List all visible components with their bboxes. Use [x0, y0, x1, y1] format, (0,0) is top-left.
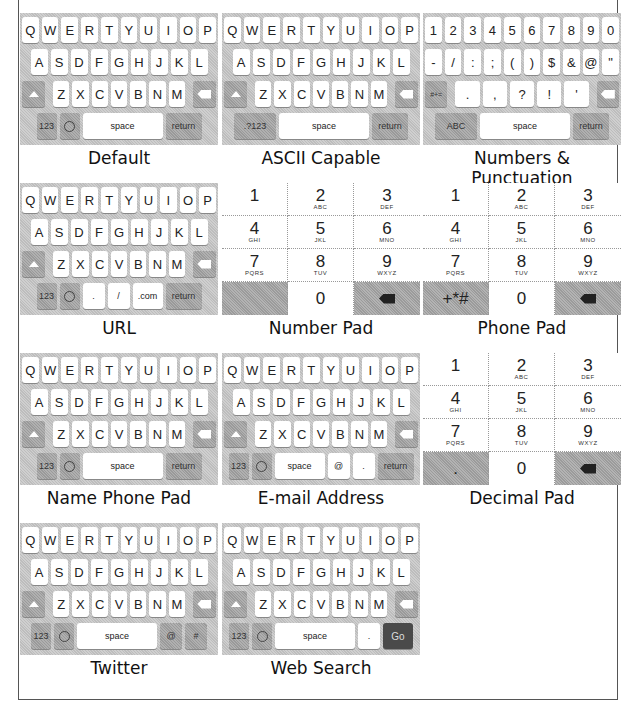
- key-8[interactable]: 8TUV: [489, 419, 555, 452]
- key-o[interactable]: O: [382, 17, 399, 43]
- key-return[interactable]: return: [573, 113, 609, 139]
- key-a[interactable]: A: [31, 559, 48, 585]
- key-3[interactable]: 3DEF: [555, 183, 621, 216]
- key-sym[interactable]: :: [464, 49, 481, 75]
- key-space[interactable]: space: [77, 623, 157, 649]
- key-delete[interactable]: [354, 282, 420, 315]
- key-k[interactable]: K: [373, 389, 390, 415]
- key-b[interactable]: B: [332, 421, 348, 447]
- key-1[interactable]: 1: [423, 353, 489, 386]
- emoji-key[interactable]: [54, 623, 74, 649]
- key-123[interactable]: 123: [229, 623, 249, 649]
- key-123[interactable]: 123: [229, 453, 249, 479]
- key-d[interactable]: D: [273, 389, 290, 415]
- key-i[interactable]: I: [160, 17, 177, 43]
- key-f[interactable]: F: [293, 389, 310, 415]
- key-y[interactable]: Y: [121, 187, 138, 213]
- key-3[interactable]: 3: [464, 17, 481, 43]
- key-sym[interactable]: .: [455, 81, 479, 107]
- key-t[interactable]: T: [303, 357, 320, 383]
- key-c[interactable]: C: [92, 421, 108, 447]
- key-u[interactable]: U: [140, 17, 157, 43]
- key-u[interactable]: U: [140, 187, 157, 213]
- key-space[interactable]: space: [83, 453, 163, 479]
- key-v[interactable]: V: [111, 591, 127, 617]
- key-1[interactable]: 1: [423, 183, 489, 216]
- key-q[interactable]: Q: [22, 527, 39, 553]
- key-v[interactable]: V: [313, 81, 329, 107]
- key-s[interactable]: S: [253, 559, 270, 585]
- key-o[interactable]: O: [180, 527, 197, 553]
- key-123[interactable]: .?123: [234, 113, 276, 139]
- key-p[interactable]: P: [199, 187, 216, 213]
- key-space[interactable]: space: [275, 623, 355, 649]
- key-f[interactable]: F: [91, 389, 108, 415]
- key-d[interactable]: D: [71, 219, 88, 245]
- key-d[interactable]: D: [273, 559, 290, 585]
- key-9[interactable]: 9WXYZ: [354, 249, 420, 282]
- key-sym[interactable]: ,: [483, 81, 507, 107]
- key-sym[interactable]: (: [504, 49, 521, 75]
- key-y[interactable]: Y: [121, 527, 138, 553]
- key-y[interactable]: Y: [323, 17, 340, 43]
- shift-key[interactable]: [22, 591, 45, 617]
- key-x[interactable]: X: [274, 591, 290, 617]
- key-k[interactable]: K: [373, 49, 390, 75]
- key-w[interactable]: W: [42, 527, 59, 553]
- delete-key[interactable]: [193, 251, 216, 277]
- key-p[interactable]: P: [401, 527, 418, 553]
- emoji-key[interactable]: [252, 623, 272, 649]
- key-space[interactable]: space: [480, 113, 570, 139]
- key-u[interactable]: U: [342, 527, 359, 553]
- shift-key[interactable]: [22, 421, 45, 447]
- key-0[interactable]: 0: [489, 282, 555, 315]
- key-j[interactable]: J: [151, 559, 168, 585]
- key-e[interactable]: E: [263, 357, 280, 383]
- key-6[interactable]: 6MNO: [354, 216, 420, 249]
- key-sym[interactable]: .: [423, 452, 489, 485]
- key-5[interactable]: 5JKL: [489, 386, 555, 419]
- key-j[interactable]: J: [353, 389, 370, 415]
- key-s[interactable]: S: [51, 559, 68, 585]
- key-return[interactable]: return: [378, 453, 414, 479]
- key-z[interactable]: Z: [255, 81, 271, 107]
- key-j[interactable]: J: [151, 219, 168, 245]
- key-h[interactable]: H: [131, 219, 148, 245]
- key-g[interactable]: G: [111, 219, 128, 245]
- key-b[interactable]: B: [332, 81, 348, 107]
- key-b[interactable]: B: [130, 81, 146, 107]
- key-5[interactable]: 5JKL: [489, 216, 555, 249]
- key-u[interactable]: U: [140, 527, 157, 553]
- key-3[interactable]: 3DEF: [555, 353, 621, 386]
- key-a[interactable]: A: [233, 389, 250, 415]
- key-w[interactable]: W: [42, 187, 59, 213]
- key-v[interactable]: V: [313, 591, 329, 617]
- key-q[interactable]: Q: [22, 187, 39, 213]
- key-b[interactable]: B: [332, 591, 348, 617]
- key-0[interactable]: 0: [288, 282, 354, 315]
- key-m[interactable]: M: [169, 591, 185, 617]
- key-h[interactable]: H: [131, 389, 148, 415]
- key-e[interactable]: E: [61, 527, 78, 553]
- key-n[interactable]: N: [149, 591, 165, 617]
- key-sym[interactable]: ;: [484, 49, 501, 75]
- key-a[interactable]: A: [31, 219, 48, 245]
- key-x[interactable]: X: [72, 81, 88, 107]
- key-c[interactable]: C: [294, 81, 310, 107]
- symbols-toggle-key[interactable]: #+=: [425, 81, 447, 107]
- key-m[interactable]: M: [169, 251, 185, 277]
- key-k[interactable]: K: [373, 559, 390, 585]
- key-i[interactable]: I: [362, 527, 379, 553]
- key-e[interactable]: E: [263, 17, 280, 43]
- key-t[interactable]: T: [101, 17, 118, 43]
- key-h[interactable]: H: [131, 49, 148, 75]
- key-g[interactable]: G: [111, 49, 128, 75]
- key-t[interactable]: T: [303, 17, 320, 43]
- key-u[interactable]: U: [342, 17, 359, 43]
- key-e[interactable]: E: [61, 17, 78, 43]
- key-sym[interactable]: /: [445, 49, 462, 75]
- key-i[interactable]: I: [160, 357, 177, 383]
- key-s[interactable]: S: [253, 49, 270, 75]
- key-7[interactable]: 7PQRS: [423, 249, 489, 282]
- key-q[interactable]: Q: [224, 17, 241, 43]
